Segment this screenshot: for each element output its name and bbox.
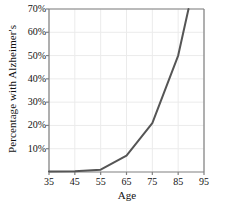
data-series bbox=[49, 9, 189, 172]
axis-tick-marks bbox=[46, 9, 204, 175]
grid-lines bbox=[49, 9, 204, 172]
plot-area bbox=[0, 0, 225, 213]
chart-figure: Percentage with Alzheimer's 10%20%30%40%… bbox=[0, 0, 225, 213]
series-line bbox=[49, 9, 189, 172]
